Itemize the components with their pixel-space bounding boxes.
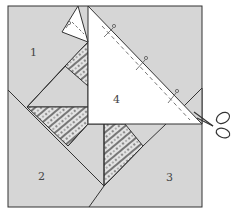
label-2: 2	[38, 170, 45, 183]
label-1: 1	[30, 46, 37, 59]
label-4: 4	[113, 93, 120, 106]
label-3: 3	[166, 171, 173, 184]
quilt-diagram: 1 2 3 4	[0, 0, 239, 215]
